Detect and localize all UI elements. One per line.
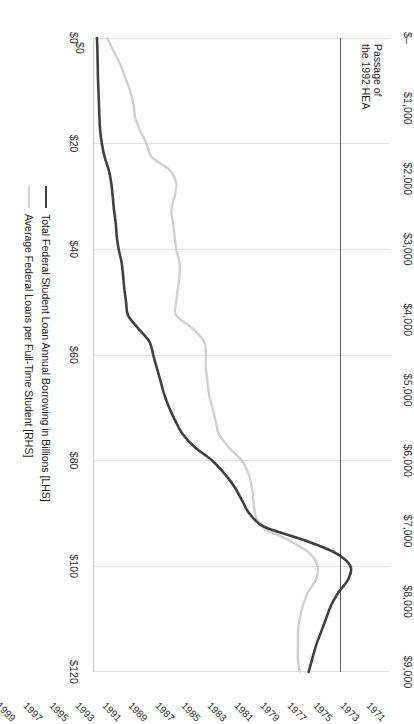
y-axis-left-tick: $120 bbox=[68, 652, 80, 692]
y-axis-left-tick: $20 bbox=[68, 124, 80, 164]
annotation-label: Passage of the 1992 HEA bbox=[360, 44, 384, 109]
y-axis-right-tick: $1,000 bbox=[402, 82, 414, 134]
chart-legend: Total Federal Student Loan Annual Borrow… bbox=[18, 186, 52, 502]
legend-swatch-line-gray bbox=[28, 186, 30, 208]
legend-label-total-borrowing: Total Federal Student Loan Annual Borrow… bbox=[40, 214, 52, 502]
y-axis-right-tick: $2,000 bbox=[402, 153, 414, 205]
y-axis-left-tick: $80 bbox=[68, 441, 80, 481]
y-axis-left-tick: $100 bbox=[68, 546, 80, 586]
y-axis-right-tick: $3,000 bbox=[402, 223, 414, 275]
legend-label-average-loans: Average Federal Loans per Full-Time Stud… bbox=[23, 214, 35, 457]
series-line-average-loans bbox=[107, 38, 318, 672]
legend-item-total-borrowing: Total Federal Student Loan Annual Borrow… bbox=[40, 186, 52, 502]
series-line-total-borrowing bbox=[97, 38, 351, 672]
legend-swatch-line-dark bbox=[45, 186, 47, 208]
y-axis-left-tick: $40 bbox=[68, 229, 80, 269]
y-axis-right-tick: $9,000 bbox=[402, 646, 414, 698]
y-axis-right-tick: $7,000 bbox=[402, 505, 414, 557]
y-axis-left-tick: $60 bbox=[68, 335, 80, 375]
y-axis-right-tick: $4,000 bbox=[402, 294, 414, 346]
y-axis-left-tick: $0 bbox=[68, 18, 80, 58]
y-axis-right-tick: $– bbox=[402, 12, 414, 64]
y-axis-right-tick: $5,000 bbox=[402, 364, 414, 416]
y-axis-right-tick: $6,000 bbox=[402, 435, 414, 487]
y-axis-right-tick: $8,000 bbox=[402, 576, 414, 628]
legend-item-average-loans: Average Federal Loans per Full-Time Stud… bbox=[23, 186, 35, 502]
